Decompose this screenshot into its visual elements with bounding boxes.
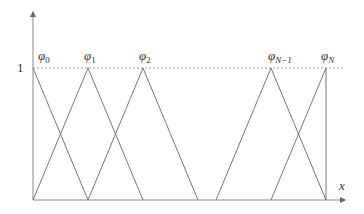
label-phi-2: φ2: [139, 48, 151, 65]
label-phi-0: φ0: [38, 48, 50, 65]
y-tick-one: 1: [17, 60, 24, 75]
hat-functions-diagram: 1 φ0 φ1 φ2 φN−1 φN x: [0, 0, 364, 214]
phi-n-minus-1-hat: [216, 68, 326, 200]
label-phi-1: φ1: [84, 48, 96, 65]
basis-functions: [33, 68, 326, 200]
phi-1-hat: [33, 68, 143, 200]
label-phi-n-minus-1: φN−1: [268, 48, 292, 65]
label-phi-n: φN: [321, 48, 335, 65]
phi-2-hat: [88, 68, 198, 200]
x-axis-label: x: [338, 178, 345, 193]
